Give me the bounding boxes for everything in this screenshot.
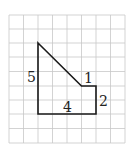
label-left: 5 [27,70,36,84]
label-bottom: 4 [63,100,72,114]
label-top-step: 1 [84,71,93,85]
label-right: 2 [99,94,108,108]
diagram [0,0,134,153]
